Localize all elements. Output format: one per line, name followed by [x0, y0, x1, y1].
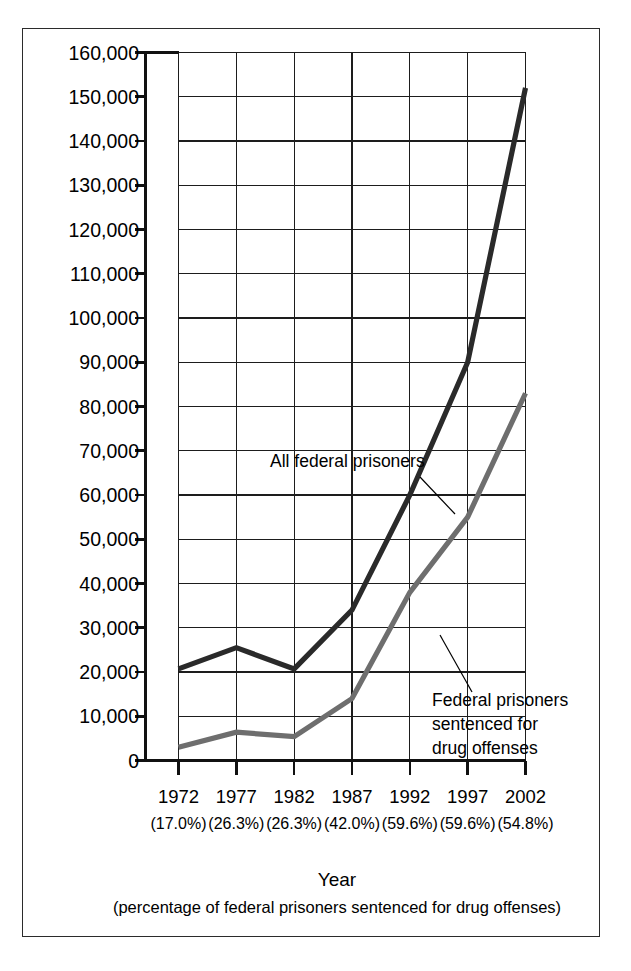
x-tick-label-percentage: (26.3%)	[266, 815, 322, 832]
x-tick-label-year: 1982	[274, 786, 315, 807]
series-annotations: All federal prisonersFederal prisonersse…	[270, 451, 568, 758]
annotation-text-line: sentenced for	[432, 714, 538, 734]
y-tick-label: 80,000	[79, 396, 139, 418]
annotation-text-line: All federal prisoners	[270, 451, 425, 471]
x-axis-subtitle: (percentage of federal prisoners sentenc…	[113, 898, 561, 916]
y-tick-label: 160,000	[69, 42, 140, 64]
y-tick-label: 100,000	[69, 307, 140, 329]
y-tick-label: 140,000	[69, 130, 140, 152]
x-tick-label-year: 2002	[505, 786, 546, 807]
y-tick-label: 120,000	[69, 219, 140, 241]
y-tick-label: 150,000	[69, 86, 140, 108]
y-tick-label: 40,000	[79, 573, 139, 595]
x-tick-label-year: 1987	[331, 786, 372, 807]
x-tick-label-year: 1997	[447, 786, 488, 807]
annotation-drug-offense-prisoners: Federal prisonerssentenced fordrug offen…	[432, 635, 568, 758]
y-tick-label: 50,000	[79, 528, 139, 550]
y-tick-label: 130,000	[69, 174, 140, 196]
line-chart: 010,00020,00030,00040,00050,00060,00070,…	[0, 0, 631, 971]
x-axis-tick-labels: 1972(17.0%)1977(26.3%)1982(26.3%)1987(42…	[150, 786, 553, 832]
annotation-text-line: drug offenses	[432, 738, 538, 758]
figure-root: 010,00020,00030,00040,00050,00060,00070,…	[0, 0, 631, 971]
x-tick-label-percentage: (26.3%)	[208, 815, 264, 832]
x-tick-label-percentage: (59.6%)	[382, 815, 438, 832]
x-axis-title: Year(percentage of federal prisoners sen…	[113, 869, 561, 916]
x-tick-label-percentage: (54.8%)	[497, 815, 553, 832]
gridlines	[179, 53, 526, 761]
y-tick-label: 110,000	[70, 263, 139, 285]
x-tick-label-year: 1977	[216, 786, 257, 807]
y-tick-label: 20,000	[79, 661, 139, 683]
x-tick-label-percentage: (42.0%)	[324, 815, 380, 832]
y-tick-label: 10,000	[79, 705, 139, 727]
y-tick-label: 90,000	[79, 351, 139, 373]
x-tick-label-percentage: (17.0%)	[150, 815, 206, 832]
y-tick-label: 30,000	[79, 617, 139, 639]
x-axis-title: Year	[318, 869, 357, 890]
x-tick-label-year: 1972	[158, 786, 199, 807]
y-tick-label: 0	[128, 750, 139, 772]
y-tick-label: 60,000	[79, 484, 139, 506]
annotation-text-line: Federal prisoners	[432, 690, 568, 710]
x-tick-label-percentage: (59.6%)	[440, 815, 496, 832]
y-tick-label: 70,000	[79, 440, 139, 462]
y-axis-tick-labels: 010,00020,00030,00040,00050,00060,00070,…	[69, 42, 140, 772]
x-tick-label-year: 1992	[389, 786, 430, 807]
